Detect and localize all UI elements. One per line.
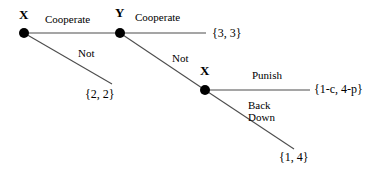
payoff-terminal-1c4p: {1-c, 4-p}	[314, 83, 363, 96]
game-tree-diagram: X Y X Cooperate Not Cooperate Not Punish…	[0, 0, 391, 174]
edge-label-x1-not: Not	[78, 48, 95, 60]
payoff-terminal-22: {2, 2}	[85, 88, 115, 101]
edge-label-y1-not: Not	[172, 53, 189, 65]
edge-label-x2-punish: Punish	[252, 70, 282, 82]
node-label-x1: X	[19, 8, 28, 22]
edge-label-x1-cooperate: Cooperate	[45, 14, 90, 26]
payoff-terminal-14: {1, 4}	[279, 151, 309, 164]
node-label-x2: X	[200, 64, 209, 78]
edge-label-x2-backdown-line2: Down	[248, 112, 275, 124]
edge-label-x2-backdown-line1: Back	[248, 100, 275, 112]
payoff-terminal-33: {3, 3}	[212, 27, 242, 40]
node-label-y1: Y	[115, 6, 124, 20]
node-point-x2	[200, 85, 210, 95]
edge-label-x2-backdown: Back Down	[248, 100, 275, 123]
edge-line-y1-not	[120, 33, 205, 90]
edge-label-y1-cooperate: Cooperate	[135, 12, 180, 24]
node-point-y1	[115, 28, 125, 38]
node-point-x1	[19, 28, 29, 38]
edge-line-x1-not	[24, 33, 112, 84]
